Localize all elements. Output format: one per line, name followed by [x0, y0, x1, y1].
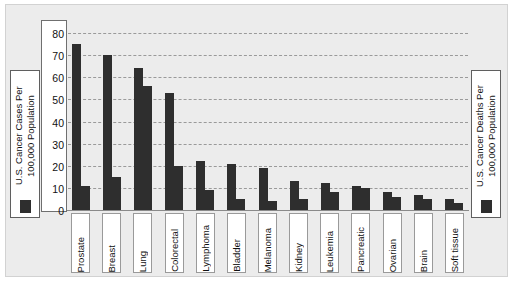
- bar-cases: [227, 164, 236, 210]
- bar-cases: [290, 181, 299, 210]
- filled-square-icon: [481, 200, 492, 213]
- bar-group: [165, 93, 183, 210]
- x-axis-category-label: Colorectal: [165, 213, 184, 273]
- y-axis-tick-label: 30: [42, 139, 64, 150]
- bar-group: [134, 68, 152, 210]
- bar-group: [290, 181, 308, 210]
- bar-deaths: [299, 199, 308, 210]
- bar-groups: [63, 22, 468, 210]
- bar-deaths: [392, 197, 401, 210]
- y-axis-tick-label: 20: [42, 162, 64, 173]
- bar-group: [383, 192, 401, 210]
- bar-cases: [321, 183, 330, 210]
- x-axis-category-label: Pancreatic: [351, 213, 370, 273]
- bar-deaths: [454, 203, 463, 210]
- category-label-text: Brain: [414, 248, 433, 272]
- bar-deaths: [205, 190, 214, 210]
- bar-group: [72, 44, 90, 210]
- bar-cases: [72, 44, 81, 210]
- y-axis-tick-label: 70: [42, 51, 64, 62]
- y-axis-tick-label: 0: [42, 206, 64, 217]
- bar-deaths: [112, 177, 121, 210]
- category-label-text: Soft tissue: [445, 226, 464, 272]
- bar-cases: [352, 186, 361, 210]
- x-axis-category-label: Soft tissue: [445, 213, 464, 273]
- legend-cases: U.S. Cancer Cases Per 100,000 Population: [10, 70, 40, 218]
- x-axis-category-label: Breast: [102, 213, 121, 273]
- bar-group: [196, 161, 214, 210]
- bar-group: [103, 55, 121, 210]
- bar-deaths: [361, 188, 370, 210]
- bar-cases: [259, 168, 268, 210]
- x-axis-category-label: Lymphoma: [196, 213, 215, 273]
- x-axis-category-label: Bladder: [227, 213, 246, 273]
- bar-deaths: [236, 199, 245, 210]
- bar-group: [321, 183, 339, 210]
- x-axis-category-label: Kidney: [289, 213, 308, 273]
- bar-deaths: [268, 201, 277, 210]
- category-label-text: Ovarian: [383, 237, 402, 272]
- category-label-text: Bladder: [227, 237, 246, 272]
- category-label-text: Breast: [102, 243, 121, 272]
- bar-group: [414, 195, 432, 210]
- bar-group: [445, 199, 463, 210]
- y-axis-tick-label: 50: [42, 95, 64, 106]
- bar-cases: [134, 68, 143, 210]
- legend-cases-label: U.S. Cancer Cases Per 100,000 Population: [13, 75, 37, 197]
- y-axis-tick-label: 60: [42, 73, 64, 84]
- x-axis-category-label: Lung: [133, 213, 152, 273]
- y-axis-tick-label: 10: [42, 184, 64, 195]
- category-label-text: Melanoma: [258, 226, 277, 272]
- category-label-text: Leukemia: [320, 229, 339, 272]
- category-label-text: Colorectal: [165, 227, 184, 272]
- category-label-text: Pancreatic: [351, 225, 370, 272]
- y-axis-tick-label: 40: [42, 117, 64, 128]
- bar-group: [259, 168, 277, 210]
- category-label-text: Kidney: [289, 241, 308, 272]
- bar-cases: [196, 161, 205, 210]
- x-axis-category-label: Melanoma: [258, 213, 277, 273]
- x-axis-category-label: Ovarian: [383, 213, 402, 273]
- bar-deaths: [330, 192, 339, 210]
- x-axis-line: [62, 210, 469, 211]
- category-label-text: Lymphoma: [196, 223, 215, 272]
- x-axis-category-label: Leukemia: [320, 213, 339, 273]
- bar-deaths: [174, 166, 183, 210]
- filled-square-icon: [20, 200, 31, 213]
- bar-cases: [414, 195, 423, 210]
- bar-deaths: [143, 86, 152, 210]
- chart-figure: 01020304050607080 ProstateBreastLungColo…: [0, 0, 513, 282]
- bar-cases: [383, 192, 392, 210]
- x-axis-category-label: Brain: [414, 213, 433, 273]
- bar-cases: [103, 55, 112, 210]
- bar-cases: [165, 93, 174, 210]
- y-axis-labels: 01020304050607080: [41, 20, 67, 212]
- legend-deaths-label: U.S. Cancer Deaths Per 100,000 Populatio…: [474, 75, 498, 197]
- x-axis-category-label: Prostate: [71, 213, 90, 273]
- x-axis-category-labels: ProstateBreastLungColorectalLymphomaBlad…: [63, 213, 468, 275]
- bar-group: [352, 186, 370, 210]
- bar-group: [227, 164, 245, 210]
- bar-deaths: [423, 199, 432, 210]
- bar-deaths: [81, 186, 90, 210]
- legend-deaths: U.S. Cancer Deaths Per 100,000 Populatio…: [471, 70, 501, 218]
- category-label-text: Lung: [133, 249, 152, 272]
- bar-cases: [445, 199, 454, 210]
- category-label-text: Prostate: [71, 235, 90, 272]
- y-axis-tick-label: 80: [42, 29, 64, 40]
